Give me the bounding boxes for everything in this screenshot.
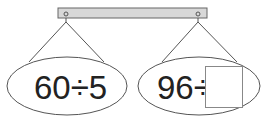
left-expression: 60÷5 [34, 71, 107, 104]
answer-box[interactable] [205, 66, 243, 108]
left-string-a [29, 22, 66, 62]
right-string-a [162, 22, 198, 62]
right-string-b [198, 22, 237, 62]
left-string-b [66, 22, 104, 62]
right-expression: 96÷ [157, 71, 212, 104]
hanging-bar [58, 8, 207, 18]
